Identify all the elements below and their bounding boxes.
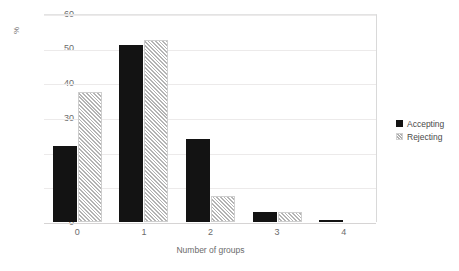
plot-area: [44, 14, 377, 222]
bar-group-4: [319, 15, 368, 222]
chart-legend: AcceptingRejecting: [396, 119, 458, 145]
legend-item-label: Rejecting: [407, 132, 442, 142]
legend-item-accepting[interactable]: Accepting: [396, 119, 458, 128]
bar-accepting-1: [119, 45, 143, 222]
bar-accepting-2: [186, 139, 210, 222]
bar-group-1: [119, 15, 168, 222]
x-axis-title: Number of groups: [44, 245, 377, 255]
x-tick-label: 1: [124, 227, 164, 237]
x-tick-label: 2: [191, 227, 231, 237]
bar-chart: % 0102030405060 01234 Number of groups A…: [0, 0, 459, 271]
y-axis-title: %: [12, 24, 21, 38]
bar-accepting-3: [253, 212, 277, 222]
x-tick-label: 4: [324, 227, 364, 237]
x-tick-label: 3: [257, 227, 297, 237]
legend-item-rejecting[interactable]: Rejecting: [396, 132, 458, 141]
bar-accepting-0: [53, 146, 77, 222]
bar-rejecting-1: [144, 40, 168, 222]
legend-swatch-icon: [396, 133, 403, 140]
bar-group-3: [253, 15, 302, 222]
bar-group-0: [53, 15, 102, 222]
legend-swatch-icon: [396, 120, 403, 127]
bar-accepting-4: [319, 220, 343, 222]
bar-rejecting-2: [211, 196, 235, 222]
bar-rejecting-0: [78, 92, 102, 222]
bar-rejecting-3: [278, 212, 302, 222]
legend-item-label: Accepting: [407, 119, 444, 129]
bar-group-2: [186, 15, 235, 222]
x-tick-label: 0: [57, 227, 97, 237]
gridline-0: [44, 223, 376, 224]
